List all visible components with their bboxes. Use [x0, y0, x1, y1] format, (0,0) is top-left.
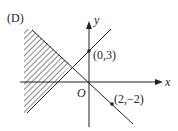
graph-figure: (D) y x O (0,3) (2,−2) [0, 0, 178, 131]
point-label-2-neg2: (2,−2) [114, 93, 144, 105]
point-label-0-3: (0,3) [93, 49, 116, 61]
shaded-region [24, 29, 71, 113]
point-0-3 [87, 49, 91, 53]
y-axis-label: y [94, 14, 99, 26]
origin-label: O [77, 87, 86, 99]
x-axis-label: x [165, 76, 170, 88]
y-axis-arrow-icon [86, 21, 92, 29]
graph-canvas [0, 0, 178, 131]
option-label: (D) [7, 12, 24, 24]
x-axis-arrow-icon [155, 79, 163, 85]
